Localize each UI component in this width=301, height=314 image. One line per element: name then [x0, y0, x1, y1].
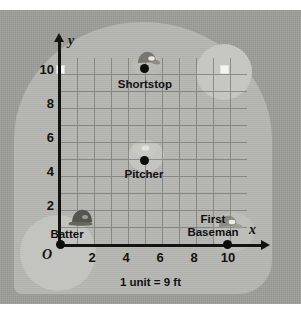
scale-caption: 1 unit = 9 ft — [0, 276, 301, 288]
baseball-cap-icon-pitcher — [131, 141, 157, 157]
y-axis-arrow — [54, 33, 64, 42]
y-tick-2: 2 — [28, 198, 54, 213]
x-axis-label: x — [249, 222, 256, 238]
origin-label: O — [42, 247, 52, 263]
point-batter[interactable] — [56, 240, 65, 249]
batter-label: Batter — [37, 228, 97, 240]
point-shortstop[interactable] — [140, 64, 149, 73]
x-axis-arrow — [261, 240, 270, 250]
first-baseman-label-line1: First — [186, 213, 240, 225]
y-tick-8: 8 — [28, 96, 54, 111]
x-tick-4: 4 — [116, 250, 136, 265]
y-tick-6: 6 — [28, 130, 54, 145]
baseball-coordinate-diagram: y x O 10 8 6 4 2 2 4 6 8 10 Batter Pitch… — [0, 0, 301, 314]
x-tick-6: 6 — [150, 250, 170, 265]
pitcher-label: Pitcher — [114, 168, 174, 180]
second-base-marker — [221, 66, 228, 73]
shortstop-label: Shortstop — [112, 78, 178, 90]
x-tick-8: 8 — [184, 250, 204, 265]
baseball-cap-icon-batter — [68, 208, 98, 228]
point-pitcher[interactable] — [140, 156, 149, 165]
x-tick-10: 10 — [216, 250, 240, 265]
x-axis-line — [60, 244, 265, 247]
y-tick-10: 10 — [28, 62, 54, 77]
x-tick-2: 2 — [82, 250, 102, 265]
y-axis-line — [58, 40, 61, 248]
y-tick-4: 4 — [28, 164, 54, 179]
point-first-baseman[interactable] — [223, 240, 232, 249]
y-axis-label: y — [68, 33, 74, 49]
first-baseman-label-line2: Baseman — [180, 226, 246, 238]
